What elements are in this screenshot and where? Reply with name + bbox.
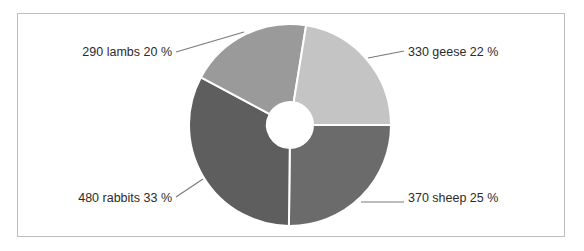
leader-line-geese [368,51,404,58]
slice-label-rabbits: 480 rabbits 33 % [78,191,172,205]
slice-sheep [289,125,391,226]
slice-label-geese: 330 geese 22 % [408,45,498,59]
slice-geese [294,25,391,125]
donut-chart: 290 lambs 20 % 330 geese 22 % 480 rabbit… [0,0,584,251]
leader-line-rabbits [176,179,203,197]
slice-label-sheep: 370 sheep 25 % [408,191,498,205]
slice-label-lambs: 290 lambs 20 % [82,45,172,59]
donut-slices [189,24,391,226]
